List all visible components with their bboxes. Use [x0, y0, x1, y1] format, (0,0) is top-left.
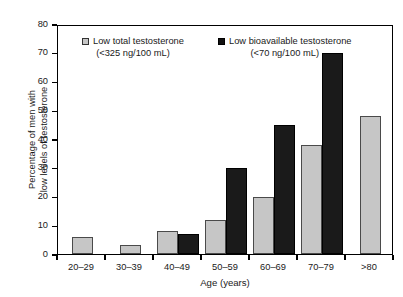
bar	[301, 145, 322, 254]
x-axis-category-label: 50–59	[201, 262, 249, 272]
legend-swatch-gray-icon	[82, 38, 89, 45]
y-axis-tick-label: 40	[38, 134, 48, 144]
bar	[157, 231, 178, 254]
x-axis-category-label: 30–39	[105, 262, 153, 272]
bar	[205, 220, 226, 255]
y-axis-tick-label: 80	[38, 19, 48, 29]
x-axis-tick-mark	[344, 255, 345, 260]
y-axis-tick-label: 20	[38, 191, 48, 201]
x-axis-tick-mark	[152, 255, 153, 260]
chart-figure: Percentage of men with low levels of tes…	[0, 0, 403, 297]
bar	[226, 168, 247, 254]
bar	[120, 245, 141, 254]
bar	[253, 197, 274, 255]
x-axis-category-label: 70–79	[297, 262, 345, 272]
x-axis-category-label: >80	[345, 262, 393, 272]
x-axis-tick-mark	[296, 255, 297, 260]
y-axis-tick-label: 70	[38, 47, 48, 57]
bar	[274, 125, 295, 254]
x-axis-category-label: 20–29	[57, 262, 105, 272]
x-axis-category-label: 40–49	[153, 262, 201, 272]
x-axis-tick-mark	[392, 255, 393, 260]
y-axis-tick-label: 50	[38, 105, 48, 115]
legend-swatch-black-icon	[218, 38, 225, 45]
legend-sublabel-bioavailable: (<70 ng/100 mL)	[218, 47, 352, 59]
bar	[360, 116, 381, 254]
x-axis-title: Age (years)	[57, 277, 393, 288]
x-axis-tick-mark	[248, 255, 249, 260]
y-axis-tick-label: 30	[38, 162, 48, 172]
x-axis-category-label: 60–69	[249, 262, 297, 272]
x-axis-tick-mark	[56, 255, 57, 260]
legend-entry-bioavailable: Low bioavailable testosterone (<70 ng/10…	[218, 35, 352, 59]
x-axis-tick-mark	[200, 255, 201, 260]
bar	[178, 234, 199, 254]
legend-label-bioavailable: Low bioavailable testosterone	[229, 36, 352, 46]
legend-label-total: Low total testosterone	[93, 36, 184, 46]
bar	[322, 53, 343, 254]
y-axis-title-line-1: Percentage of men with	[27, 25, 39, 255]
x-axis-tick-mark	[104, 255, 105, 260]
bar	[72, 237, 93, 254]
y-axis-tick-label: 60	[38, 76, 48, 86]
y-axis-tick-label: 0	[43, 249, 48, 259]
legend-entry-total: Low total testosterone (<325 ng/100 mL)	[82, 35, 184, 59]
legend-sublabel-total: (<325 ng/100 mL)	[82, 47, 184, 59]
plot-area: Low total testosterone (<325 ng/100 mL) …	[57, 25, 393, 255]
y-axis-tick-label: 10	[38, 220, 48, 230]
